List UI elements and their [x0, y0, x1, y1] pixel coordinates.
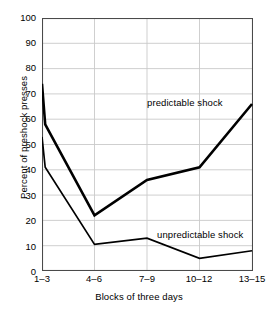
- y-tick-label-30: 30: [2, 191, 36, 200]
- y-tick-label-70: 70: [2, 89, 36, 98]
- x-tick-label-13-15: 13–15: [229, 274, 275, 283]
- annotation-predictable-shock: predictable shock: [147, 97, 223, 108]
- y-tick-label-50: 50: [2, 140, 36, 149]
- y-tick-label-20: 20: [2, 216, 36, 225]
- y-tick-label-10: 10: [2, 242, 36, 251]
- y-tick-label-100: 100: [2, 13, 36, 22]
- annotation-unpredictable-shock: unpredictable shock: [157, 229, 243, 240]
- chart-figure: Percent of preshock presses 100 90 80 70…: [0, 0, 278, 312]
- x-axis-title: Blocks of three days: [0, 291, 278, 302]
- x-tick-label-10-12: 10–12: [176, 274, 222, 283]
- x-tick-label-7-9: 7–9: [124, 274, 170, 283]
- y-tick-label-80: 80: [2, 63, 36, 72]
- x-tick-label-1-3: 1–3: [19, 274, 65, 283]
- y-tick-label-90: 90: [2, 38, 36, 47]
- y-tick-label-60: 60: [2, 114, 36, 123]
- x-tick-label-4-6: 4–6: [71, 274, 117, 283]
- y-tick-label-40: 40: [2, 165, 36, 174]
